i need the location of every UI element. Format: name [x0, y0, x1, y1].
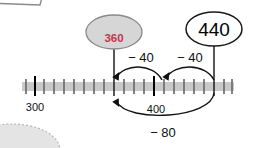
- jump-arcs-upper: [116, 67, 214, 80]
- start-bubble-440[interactable]: 440: [186, 12, 242, 46]
- tick-label-300: 300: [26, 101, 44, 113]
- corner-shape-top-left: [0, 0, 44, 5]
- jump-label-right: − 40: [177, 50, 203, 65]
- tick-label-400: 400: [147, 103, 165, 115]
- answer-bubble-value: 360: [104, 32, 123, 44]
- arc-jump-left: [116, 67, 162, 80]
- arc-jump-right: [166, 67, 214, 80]
- jump-label-total: − 80: [150, 125, 176, 140]
- answer-bubble-360[interactable]: 360: [86, 15, 142, 49]
- start-bubble-value: 440: [198, 19, 230, 40]
- number-line-axis: [22, 76, 234, 96]
- diagram-canvas: 360 440 − 40 − 40 − 80 300 400: [0, 0, 256, 148]
- jump-label-left: − 40: [128, 50, 154, 65]
- corner-shape-bottom-left: [0, 124, 60, 148]
